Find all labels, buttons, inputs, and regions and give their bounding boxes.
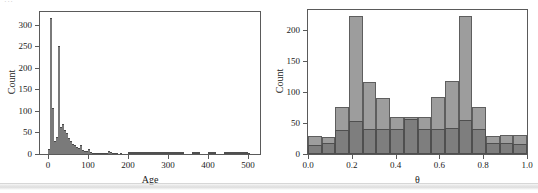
histogram-bar [224, 152, 232, 154]
y-axis-tick [303, 154, 307, 155]
histogram-bar [248, 153, 250, 154]
y-axis-tick [303, 30, 307, 31]
bars-theta [308, 10, 527, 154]
histogram-bar [486, 143, 500, 154]
x-axis-tick [248, 155, 249, 159]
bars-age [40, 12, 260, 154]
y-axis-tick-label: 200 [269, 25, 300, 34]
histogram-bar [176, 152, 184, 154]
histogram-bar [232, 152, 240, 154]
histogram-bar [513, 144, 527, 154]
scan-band [0, 183, 538, 190]
y-axis-title-theta: Count [275, 61, 285, 101]
x-axis-tick [168, 155, 169, 159]
x-axis-tick-label: 200 [121, 161, 135, 170]
x-axis-tick [88, 155, 89, 159]
histogram-bar [335, 130, 349, 154]
y-axis-tick [303, 61, 307, 62]
x-axis-tick [128, 155, 129, 159]
x-axis-tick-label: 300 [161, 161, 175, 170]
y-axis-tick [35, 89, 39, 90]
x-axis-tick-label: 0 [46, 161, 51, 170]
y-axis-tick [35, 46, 39, 47]
x-axis-tick-label: 500 [241, 161, 255, 170]
panel-theta-histogram: 0501001502000.00.20.40.60.81.0 θ Count [269, 0, 538, 193]
x-axis-tick [308, 155, 309, 159]
histogram-bar [500, 143, 514, 154]
histogram-bar [240, 152, 248, 154]
x-axis-tick-label: 1.0 [521, 161, 532, 170]
histogram-bar [160, 152, 168, 154]
histogram-bar [431, 129, 445, 154]
histogram-bar [445, 128, 459, 154]
histogram-bar [120, 153, 122, 154]
y-axis-title-age: Count [7, 62, 17, 102]
x-axis-tick [527, 155, 528, 159]
histogram-bar [168, 152, 176, 154]
y-axis-tick-label: 250 [1, 42, 32, 51]
histogram-bar [363, 129, 377, 154]
y-axis-tick [35, 25, 39, 26]
histogram-bar [208, 152, 216, 154]
y-axis-tick-label: 300 [1, 20, 32, 29]
y-axis-tick-label: 50 [1, 128, 32, 137]
y-axis-tick [35, 154, 39, 155]
x-axis-tick [48, 155, 49, 159]
x-axis-tick-label: 400 [201, 161, 215, 170]
x-axis-tick-label: 0.8 [478, 161, 489, 170]
x-axis-tick [439, 155, 440, 159]
y-axis-tick [35, 68, 39, 69]
histogram-bar [472, 129, 486, 154]
x-axis-tick-label: 100 [81, 161, 95, 170]
x-axis-tick [396, 155, 397, 159]
x-axis-tick-label: 0.0 [302, 161, 313, 170]
x-axis-tick [352, 155, 353, 159]
y-axis-tick-label: 100 [1, 106, 32, 115]
histogram-bar [192, 152, 200, 154]
y-axis-tick [303, 123, 307, 124]
histogram-bar [322, 143, 336, 154]
histogram-bar [390, 129, 404, 154]
y-axis-tick [35, 111, 39, 112]
y-axis-tick [303, 92, 307, 93]
plot-area-age [39, 11, 261, 155]
histogram-bar [116, 153, 118, 154]
histogram-bar [404, 119, 418, 154]
x-axis-tick [208, 155, 209, 159]
histogram-bar [349, 121, 363, 154]
histogram-bar [418, 129, 432, 154]
figure-root: ··· 0501001502002503000100200300400500 A… [0, 0, 538, 193]
panel-age-histogram: 0501001502002503000100200300400500 Age C… [0, 0, 269, 193]
plot-area-theta [307, 9, 528, 155]
histogram-bar [308, 145, 322, 154]
y-axis-tick-label: 0 [269, 150, 300, 159]
y-axis-tick-label: 0 [1, 150, 32, 159]
x-axis-tick-label: 0.6 [434, 161, 445, 170]
y-axis-tick [35, 132, 39, 133]
histogram-bar [459, 120, 473, 154]
x-axis-tick [483, 155, 484, 159]
x-axis-tick-label: 0.4 [390, 161, 401, 170]
y-axis-tick-label: 50 [269, 118, 300, 127]
histogram-bar [376, 129, 390, 154]
x-axis-tick-label: 0.2 [346, 161, 357, 170]
